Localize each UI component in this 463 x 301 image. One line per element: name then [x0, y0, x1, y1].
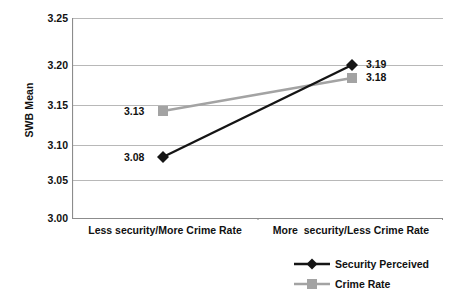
diamond-marker-icon — [293, 257, 331, 271]
series-crime-rate — [158, 73, 357, 116]
data-point-marker — [158, 106, 168, 116]
y-axis-tick-labels: 3.25 3.20 3.15 3.10 3.05 3.00 — [28, 0, 68, 301]
y-tick-label: 3.10 — [34, 139, 68, 151]
data-point-marker — [157, 151, 169, 163]
x-tick-label-category-0: Less security/More Crime Rate — [72, 224, 258, 236]
y-tick-label: 3.15 — [34, 99, 68, 111]
legend-item-security-perceived: Security Perceived — [293, 254, 463, 274]
y-tick-label: 3.25 — [34, 12, 68, 24]
data-point-marker — [346, 59, 358, 71]
y-tick-label: 3.05 — [34, 174, 68, 186]
plot-area — [72, 18, 443, 218]
legend-item-crime-rate: Crime Rate — [293, 274, 463, 294]
data-label-security-left: 3.08 — [124, 151, 144, 163]
data-label-security-right: 3.19 — [366, 58, 386, 70]
data-label-crime-right: 3.18 — [366, 71, 386, 83]
x-tick-label-category-1: More security/Less Crime Rate — [258, 224, 444, 236]
legend-label: Crime Rate — [331, 278, 390, 290]
line-chart: SWB Mean 3.25 3.20 3.15 3.10 3.05 3.00 — [0, 0, 463, 301]
y-tick-label: 3.00 — [34, 212, 68, 224]
chart-legend: Security Perceived Crime Rate — [293, 254, 463, 294]
y-tick-label: 3.20 — [34, 59, 68, 71]
series-security-perceived — [157, 59, 358, 163]
plot-svg — [72, 18, 443, 220]
data-point-marker — [347, 73, 357, 83]
data-label-crime-left: 3.13 — [124, 105, 144, 117]
square-marker-icon — [293, 277, 331, 291]
legend-label: Security Perceived — [331, 258, 429, 270]
